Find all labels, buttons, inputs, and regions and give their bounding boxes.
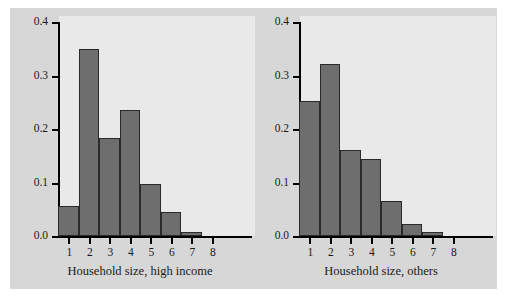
x-tick-label: 4 <box>362 247 382 258</box>
x-tick-mark <box>432 238 434 244</box>
figure-root: 0.00.10.20.30.4 12345678 Household size,… <box>0 0 510 301</box>
bar <box>320 64 341 236</box>
y-tick-mark <box>52 129 59 131</box>
y-tick-label: 0.2 <box>16 123 48 134</box>
bar <box>402 224 423 236</box>
bar <box>299 101 320 236</box>
x-tick-label: 3 <box>100 247 120 258</box>
x-tick-mark <box>89 238 91 244</box>
y-tick-label: 0.2 <box>257 123 289 134</box>
x-tick-label: 2 <box>80 247 100 258</box>
x-tick-label: 8 <box>444 247 464 258</box>
x-axis-title: Household size, others <box>271 264 491 278</box>
y-tick-label: 0.0 <box>257 230 289 241</box>
y-tick-mark <box>52 22 59 24</box>
bar <box>381 201 402 236</box>
x-tick-mark <box>109 238 111 244</box>
bar <box>140 184 161 236</box>
bar <box>361 159 382 236</box>
y-tick-mark <box>293 22 300 24</box>
x-tick-mark <box>391 238 393 244</box>
y-tick-label: 0.4 <box>257 16 289 27</box>
y-tick-mark <box>52 236 59 238</box>
bar <box>58 206 79 236</box>
bar <box>120 110 141 236</box>
x-tick-mark <box>150 238 152 244</box>
bar <box>181 232 202 236</box>
x-tick-mark <box>309 238 311 244</box>
x-tick-mark <box>212 238 214 244</box>
bar <box>99 138 120 236</box>
bar <box>422 232 443 236</box>
y-tick-label: 0.3 <box>257 70 289 81</box>
x-tick-label: 5 <box>141 247 161 258</box>
x-tick-mark <box>330 238 332 244</box>
y-tick-label: 0.0 <box>16 230 48 241</box>
x-tick-mark <box>371 238 373 244</box>
x-tick-label: 6 <box>403 247 423 258</box>
x-tick-mark <box>171 238 173 244</box>
x-tick-label: 7 <box>423 247 443 258</box>
x-tick-label: 1 <box>300 247 320 258</box>
x-tick-label: 5 <box>382 247 402 258</box>
chart-panel-others: 0.00.10.20.30.4 12345678 Household size,… <box>253 8 497 289</box>
x-tick-label: 7 <box>182 247 202 258</box>
x-tick-mark <box>350 238 352 244</box>
y-tick-mark <box>52 183 59 185</box>
y-tick-label: 0.1 <box>257 177 289 188</box>
y-tick-mark <box>293 76 300 78</box>
y-tick-label: 0.4 <box>16 16 48 27</box>
x-tick-mark <box>130 238 132 244</box>
x-tick-label: 3 <box>341 247 361 258</box>
bar <box>161 212 182 236</box>
y-tick-mark <box>52 76 59 78</box>
x-tick-mark <box>191 238 193 244</box>
x-axis-title: Household size, high income <box>30 264 250 278</box>
x-tick-label: 2 <box>321 247 341 258</box>
x-tick-label: 6 <box>162 247 182 258</box>
bar <box>340 150 361 236</box>
chart-panel-high-income: 0.00.10.20.30.4 12345678 Household size,… <box>10 8 253 289</box>
x-tick-label: 8 <box>203 247 223 258</box>
bar <box>79 49 100 236</box>
y-tick-label: 0.3 <box>16 70 48 81</box>
figure-panel: 0.00.10.20.30.4 12345678 Household size,… <box>10 8 497 289</box>
x-tick-label: 1 <box>59 247 79 258</box>
x-tick-mark <box>68 238 70 244</box>
y-tick-label: 0.1 <box>16 177 48 188</box>
y-tick-mark <box>293 236 300 238</box>
x-tick-mark <box>412 238 414 244</box>
x-tick-label: 4 <box>121 247 141 258</box>
x-tick-mark <box>453 238 455 244</box>
